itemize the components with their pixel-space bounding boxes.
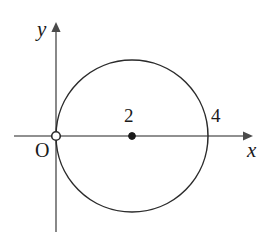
- math-figure-circle: y x O 2 4: [0, 0, 270, 241]
- x-axis-label: x: [247, 140, 256, 161]
- y-axis-label: y: [37, 19, 46, 40]
- right-intercept-label: 4: [211, 106, 221, 125]
- center-value-label: 2: [124, 106, 134, 125]
- arrow-up-icon: [51, 22, 60, 32]
- filled-dot-icon: [129, 133, 136, 140]
- open-dot-icon: [52, 132, 61, 141]
- origin-label: O: [35, 140, 49, 160]
